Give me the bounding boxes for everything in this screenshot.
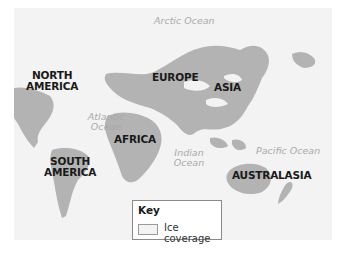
atlantic-line2: Ocean bbox=[76, 122, 136, 132]
map-key: Key Ice coverage bbox=[132, 200, 222, 240]
asia-label: ASIA bbox=[214, 82, 241, 93]
africa-label: AFRICA bbox=[114, 134, 156, 145]
atlantic-ocean-label: Atlantic Ocean bbox=[76, 112, 136, 132]
pacific-ocean-label: Pacific Ocean bbox=[256, 146, 320, 156]
south-america-label: SOUTH AMERICA bbox=[44, 156, 96, 178]
north-america-line2: AMERICA bbox=[26, 81, 78, 92]
ice-coverage-swatch bbox=[138, 224, 158, 235]
indian-ocean-label: Indian Ocean bbox=[164, 148, 214, 168]
key-title: Key bbox=[138, 204, 160, 216]
indian-line2: Ocean bbox=[164, 158, 214, 168]
ice-coverage-label: Ice coverage bbox=[164, 222, 221, 244]
south-america-line2: AMERICA bbox=[44, 167, 96, 178]
arctic-ocean-label: Arctic Ocean bbox=[154, 16, 215, 26]
australasia-label: AUSTRALASIA bbox=[232, 170, 311, 181]
north-america-label: NORTH AMERICA bbox=[26, 70, 78, 92]
europe-label: EUROPE bbox=[152, 72, 198, 83]
